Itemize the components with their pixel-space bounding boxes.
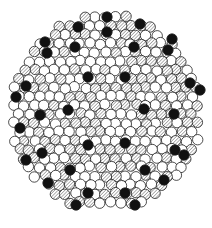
white-atom [116, 198, 126, 208]
black-atom [71, 200, 81, 210]
white-atom [85, 38, 95, 48]
hatched-atom [177, 126, 187, 136]
hatched-atom [30, 64, 40, 74]
white-atom [161, 83, 171, 93]
hatched-atom [29, 46, 39, 56]
black-atom [21, 81, 31, 91]
white-atom [101, 47, 111, 57]
hatched-atom [70, 153, 80, 163]
black-atom [120, 72, 130, 82]
white-atom [130, 64, 140, 74]
black-atom [83, 72, 93, 82]
black-atom [65, 165, 75, 175]
hatched-atom [49, 100, 59, 110]
white-atom [193, 135, 203, 145]
hatched-atom [59, 189, 69, 199]
black-atom [73, 22, 83, 32]
hatched-atom [86, 126, 96, 136]
white-atom [84, 161, 94, 171]
hatched-atom [80, 117, 90, 127]
hatched-atom [126, 161, 136, 171]
black-atom [37, 148, 47, 158]
hatched-atom [131, 188, 141, 198]
white-atom [105, 38, 115, 48]
black-atom [185, 78, 195, 88]
white-atom [150, 82, 160, 92]
black-atom [63, 105, 73, 115]
black-atom [179, 150, 189, 160]
cluster-diagram [0, 0, 212, 228]
black-atom [140, 165, 150, 175]
black-atom [35, 110, 45, 120]
hatched-atom [137, 126, 147, 136]
black-atom [139, 104, 149, 114]
black-atom [102, 27, 112, 37]
white-atom [59, 65, 69, 75]
black-atom [135, 19, 145, 29]
black-atom [40, 37, 50, 47]
hatched-atom [95, 144, 105, 154]
white-atom [105, 197, 115, 207]
atoms-layer [9, 11, 206, 210]
white-atom [171, 170, 181, 180]
black-atom [169, 109, 179, 119]
white-atom [100, 99, 110, 109]
black-atom [11, 92, 21, 102]
white-atom [157, 162, 167, 172]
black-atom [159, 175, 169, 185]
white-atom [106, 90, 116, 100]
hatched-atom [121, 11, 131, 21]
black-atom [83, 188, 93, 198]
hatched-atom [96, 108, 106, 118]
white-atom [150, 100, 160, 110]
hatched-atom [95, 74, 105, 84]
black-atom [102, 12, 112, 22]
black-atom [120, 188, 130, 198]
hatched-atom [70, 64, 80, 74]
white-atom [95, 198, 105, 208]
black-atom [120, 138, 130, 148]
black-atom [42, 48, 52, 58]
hatched-atom [110, 187, 120, 197]
hatched-atom [59, 47, 69, 57]
white-atom [24, 127, 34, 137]
hatched-atom [192, 117, 202, 127]
white-atom [116, 109, 126, 119]
black-atom [195, 85, 205, 95]
white-atom [39, 100, 49, 110]
white-atom [101, 135, 111, 145]
white-atom [29, 172, 39, 182]
hatched-atom [157, 56, 167, 66]
white-atom [44, 91, 54, 101]
hatched-atom [96, 162, 106, 172]
black-atom [15, 123, 25, 133]
white-atom [115, 56, 125, 66]
black-atom [83, 140, 93, 150]
black-atom [129, 42, 139, 52]
black-atom [43, 178, 53, 188]
atomic-cluster-figure [0, 0, 212, 228]
white-atom [59, 152, 69, 162]
black-atom [130, 200, 140, 210]
black-atom [163, 45, 173, 55]
hatched-atom [150, 188, 160, 198]
white-atom [114, 126, 124, 136]
black-atom [21, 155, 31, 165]
black-atom [167, 34, 177, 44]
black-atom [70, 42, 80, 52]
white-atom [51, 170, 61, 180]
white-atom [106, 161, 116, 171]
hatched-atom [64, 179, 74, 189]
hatched-atom [162, 117, 172, 127]
hatched-atom [140, 82, 150, 92]
